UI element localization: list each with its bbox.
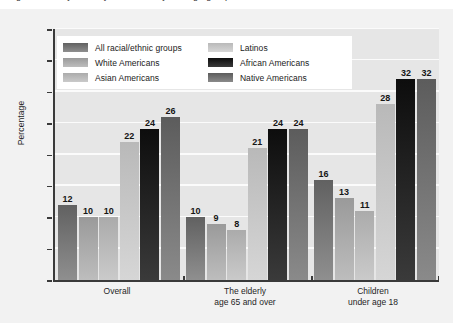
bar: 10 <box>79 217 98 280</box>
x-category-label: The elderlyage 65 and over <box>181 286 309 308</box>
bar: 32 <box>417 79 436 280</box>
bar: 24 <box>289 129 308 280</box>
bar-value-label: 10 <box>190 206 200 216</box>
legend: All racial/ethnic groupsWhite AmericansA… <box>57 36 352 89</box>
y-tick-mark <box>47 29 52 31</box>
bar-value-label: 24 <box>145 118 155 128</box>
bar-value-label: 21 <box>252 137 262 147</box>
legend-swatch-icon <box>63 43 88 52</box>
legend-swatch-icon <box>63 58 88 67</box>
bar: 11 <box>355 211 374 280</box>
legend-item-right-1[interactable]: African Americans <box>208 55 346 70</box>
bar: 24 <box>140 129 159 280</box>
bar-value-label: 24 <box>293 118 303 128</box>
y-tick-mark <box>47 155 52 157</box>
legend-column-left: All racial/ethnic groupsWhite AmericansA… <box>63 40 208 85</box>
legend-label: White Americans <box>95 58 160 68</box>
legend-column-right: LatinosAfrican AmericansNative Americans <box>208 40 346 85</box>
bar: 9 <box>207 224 226 280</box>
legend-label: Native Americans <box>240 73 307 83</box>
legend-swatch-icon <box>63 73 88 82</box>
bar-value-label: 10 <box>83 206 93 216</box>
clipped-caption: Figure: Poverty rates by race/ethnicity … <box>0 0 453 9</box>
bar: 28 <box>376 104 395 280</box>
y-axis-title: Percentage <box>16 78 26 168</box>
legend-item-right-2[interactable]: Native Americans <box>208 70 346 85</box>
gridline <box>55 90 439 92</box>
gridline <box>55 28 439 30</box>
legend-swatch-icon <box>208 73 233 82</box>
group-separator <box>311 276 313 282</box>
bar: 10 <box>186 217 205 280</box>
bar-value-label: 24 <box>273 118 283 128</box>
legend-label: African Americans <box>240 58 309 68</box>
bar-value-label: 10 <box>104 206 114 216</box>
x-category-label: Overall <box>53 286 181 297</box>
bar: 22 <box>120 142 139 280</box>
bar: 16 <box>314 180 333 280</box>
y-tick-mark <box>47 249 52 251</box>
bar-chart-figure: Figure: Poverty rates by race/ethnicity … <box>0 0 453 323</box>
bar-value-label: 8 <box>234 219 239 229</box>
legend-label: All racial/ethnic groups <box>95 43 182 53</box>
bar: 10 <box>99 217 118 280</box>
x-category-line: age 65 and over <box>181 297 309 308</box>
y-tick-mark <box>47 60 52 62</box>
bar-value-label: 9 <box>214 213 219 223</box>
x-category-line: Overall <box>53 286 181 297</box>
legend-item-left-1[interactable]: White Americans <box>63 55 208 70</box>
bar-value-label: 32 <box>421 68 431 78</box>
bar: 12 <box>58 205 77 280</box>
bar-value-label: 26 <box>165 106 175 116</box>
bar-value-label: 28 <box>380 93 390 103</box>
legend-item-right-0[interactable]: Latinos <box>208 40 346 55</box>
bar-value-label: 11 <box>360 200 370 210</box>
x-category-line: The elderly <box>181 286 309 297</box>
bar: 24 <box>268 129 287 280</box>
bar: 8 <box>227 230 246 280</box>
axis-end-tick <box>438 276 440 282</box>
legend-item-left-2[interactable]: Asian Americans <box>63 70 208 85</box>
y-tick-mark <box>47 186 52 188</box>
group-separator <box>183 276 185 282</box>
legend-swatch-icon <box>208 43 233 52</box>
y-tick-mark <box>47 123 52 125</box>
clipped-caption-text: Figure: Poverty rates by race/ethnicity … <box>8 0 230 1</box>
bar-value-label: 32 <box>401 68 411 78</box>
x-category-label: Childrenunder age 18 <box>309 286 437 308</box>
x-category-line: Children <box>309 286 437 297</box>
x-category-line: under age 18 <box>309 297 437 308</box>
legend-swatch-icon <box>208 58 233 67</box>
bar-value-label: 13 <box>339 187 349 197</box>
bar: 21 <box>248 148 267 280</box>
legend-label: Latinos <box>240 43 268 53</box>
legend-label: Asian Americans <box>95 73 159 83</box>
y-tick-mark <box>47 217 52 219</box>
bar: 32 <box>396 79 415 280</box>
bar: 26 <box>161 117 180 280</box>
y-tick-mark <box>47 92 52 94</box>
bar-value-label: 16 <box>318 169 328 179</box>
bar-value-label: 12 <box>62 194 72 204</box>
y-tick-mark <box>47 280 52 282</box>
bar: 13 <box>335 198 354 280</box>
legend-item-left-0[interactable]: All racial/ethnic groups <box>63 40 208 55</box>
bar-value-label: 22 <box>124 131 134 141</box>
